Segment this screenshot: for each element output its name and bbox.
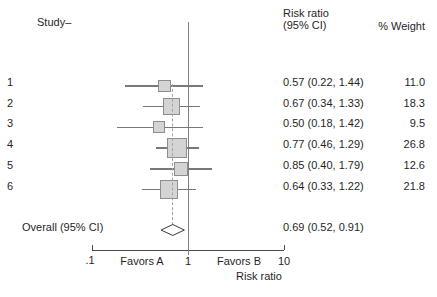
x-axis-end-tick (284, 245, 285, 250)
weight-square (160, 180, 178, 198)
weight-column-header: % Weight (350, 20, 425, 33)
study-row-label: 1 (7, 76, 13, 89)
x-axis-title: Risk ratio (214, 270, 304, 282)
weight-square (153, 121, 165, 133)
overall-diamond (160, 223, 185, 237)
study-weight-value: 21.8 (350, 180, 425, 193)
study-row-label: 6 (7, 180, 13, 193)
reference-line (188, 22, 189, 255)
overall-rr-value: 0.69 (0.52, 0.91) (283, 221, 364, 234)
study-weight-value: 18.3 (350, 97, 425, 110)
weight-square (174, 162, 188, 176)
favors-a-label: Favors A (102, 255, 182, 267)
study-row-label: 3 (7, 117, 13, 130)
forest-plot-figure: Study– Risk ratio (95% CI) % Weight 10.5… (0, 0, 437, 297)
study-row-label: 4 (7, 138, 13, 151)
study-column-header: Study– (37, 16, 71, 29)
overall-label: Overall (95% CI) (22, 221, 103, 234)
risk-ratio-header-line2: (95% CI) (283, 19, 329, 31)
overall-diamond-shape (161, 225, 184, 236)
study-row-label: 5 (7, 159, 13, 172)
risk-ratio-column-header: Risk ratio (95% CI) (283, 7, 329, 31)
study-weight-value: 26.8 (350, 138, 425, 151)
weight-square (167, 138, 187, 158)
axis-tick-label-0-1: .1 (80, 254, 100, 266)
study-row-label: 2 (7, 97, 13, 110)
x-axis-end-tick (92, 245, 93, 250)
study-weight-value: 11.0 (350, 76, 425, 89)
overall-estimate-dashed-line (172, 84, 173, 225)
study-weight-value: 12.6 (350, 159, 425, 172)
favors-b-label: Favors B (199, 255, 279, 267)
study-weight-value: 9.5 (350, 117, 425, 130)
weight-square (158, 80, 171, 93)
risk-ratio-header-line1: Risk ratio (283, 7, 329, 19)
